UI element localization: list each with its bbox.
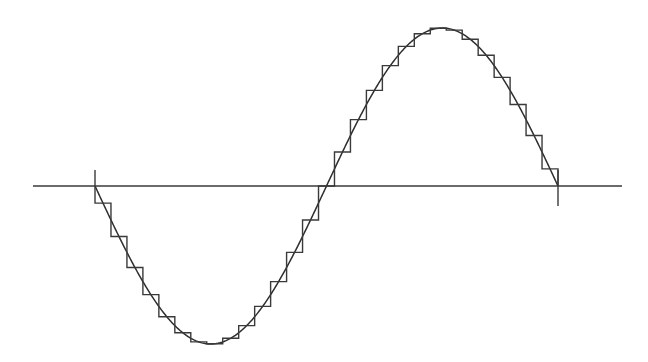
diagram-svg [0, 0, 648, 362]
sampled-sine-diagram [0, 0, 648, 362]
